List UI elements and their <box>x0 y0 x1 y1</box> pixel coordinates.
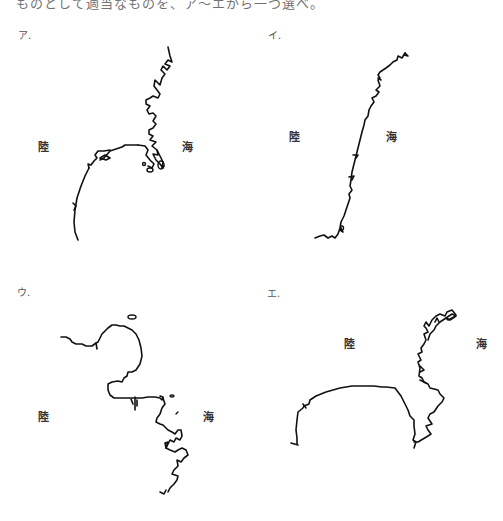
panel-a-coastline <box>73 47 172 240</box>
panel-i-coastline <box>315 53 408 238</box>
panel-u-coastline <box>61 315 188 494</box>
coastline-maps <box>0 0 503 521</box>
panel-e-coastline <box>291 310 456 448</box>
